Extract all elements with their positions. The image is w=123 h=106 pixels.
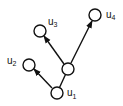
edge-u1-u2-arrow <box>34 69 52 88</box>
label-u1: u1 <box>67 87 77 100</box>
edge-center-u3-arrow <box>44 36 64 64</box>
node-u4 <box>89 9 101 21</box>
label-u3: u3 <box>48 16 58 28</box>
node-u1 <box>51 87 63 99</box>
tree-diagram: u1 u2 u3 u4 <box>0 0 123 106</box>
edge-center-u4-arrow <box>71 21 92 63</box>
label-u4: u4 <box>106 9 116 21</box>
node-center <box>62 63 74 75</box>
node-u2 <box>23 59 35 71</box>
label-u2: u2 <box>7 55 17 67</box>
node-u3 <box>34 25 46 37</box>
